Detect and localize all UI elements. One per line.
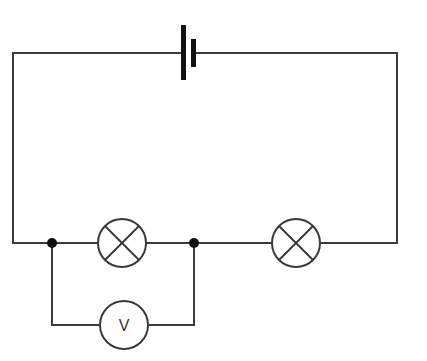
battery-icon <box>181 25 196 80</box>
circuit-svg: V <box>0 0 427 361</box>
wire-left <box>13 53 182 243</box>
junction-dot-left <box>47 238 57 248</box>
lamp-icon <box>98 219 146 267</box>
lamp-icon <box>272 219 320 267</box>
wire-right <box>192 53 397 243</box>
voltmeter-label: V <box>119 317 130 334</box>
junction-dot-right <box>189 238 199 248</box>
circuit-diagram: V <box>0 0 427 361</box>
wire-voltmeter-left <box>52 243 100 325</box>
wire-voltmeter-right <box>148 243 194 325</box>
voltmeter-icon: V <box>100 301 148 349</box>
wires <box>13 53 397 325</box>
